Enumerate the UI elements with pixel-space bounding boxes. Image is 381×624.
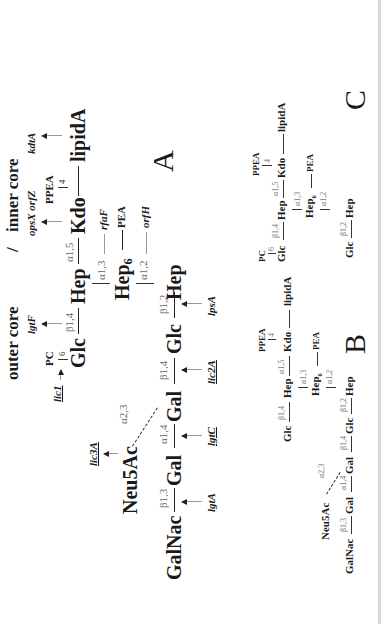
c-bond-hep-hep6 (292, 209, 302, 210)
opsX-arrow (42, 221, 62, 222)
core-separator: / (4, 247, 21, 252)
c-glc-lower-node: Glc (344, 242, 355, 259)
b-link-a23: α2,3 (318, 464, 326, 478)
b-ppea-bond (268, 339, 276, 340)
c-kdo-node: Kdo (276, 158, 287, 178)
c-hep-lower-node: Hep (344, 198, 355, 218)
c-link-a15: α1,5 (272, 182, 280, 196)
figure-frame: outer core / inner core lgtF opsX orfZ k… (0, 0, 381, 624)
b-lipidA-node: lipidA (282, 277, 293, 306)
glc-node: Glc (68, 338, 88, 368)
b-link-a12: α1,2 (326, 370, 334, 384)
bond-neu5ac-gal (132, 407, 158, 446)
gene-lgtF: lgtF (26, 315, 37, 334)
b-link-b12: β1,2 (340, 398, 348, 412)
b-neu5ac-node: Neu5Ac (320, 503, 331, 540)
c-lipidA-node: lipidA (276, 103, 287, 132)
lps-structure-diagram: outer core / inner core lgtF opsX orfZ k… (0, 0, 381, 624)
panel-label-A: A (148, 150, 178, 172)
pc-substituent: PC (44, 351, 55, 366)
b-kdo-node: Kdo (282, 332, 293, 352)
link-b13: β1,3 (158, 489, 169, 508)
c-pea-substituent: PEA (306, 154, 315, 172)
panel-label-C: C (340, 90, 370, 110)
b-bond-hep-hep6 (298, 387, 308, 388)
c-link-b14: β1,4 (272, 224, 280, 238)
b-link-a14: α1,4 (340, 476, 348, 490)
galnac-node: GalNac (164, 516, 184, 580)
lic3A-arrow (104, 453, 118, 454)
kdo-node: Kdo (68, 197, 88, 234)
b-glc2-node: Glc (344, 418, 355, 435)
rfaF-arrow (104, 234, 105, 254)
b-glc-node: Glc (282, 426, 293, 443)
c-link-a12: α1,2 (320, 192, 328, 206)
b-bond-glc-hep (289, 402, 290, 422)
b-hep-node: Hep (282, 378, 293, 398)
c-bond-hep-kdo (283, 180, 284, 198)
lpsA-arrow (182, 303, 202, 304)
c-bond-hep6-hep (320, 209, 330, 210)
b-gal2-node: Gal (344, 457, 355, 474)
gene-opsX-orfZ: opsX orfZ (26, 190, 37, 236)
ppea-bond (58, 187, 68, 188)
link-a14: α1,4 (158, 424, 169, 444)
b-link-b14: β1,4 (278, 406, 286, 420)
link-b14-gal-glc: β1,4 (158, 361, 169, 380)
c-hep-node: Hep (276, 200, 287, 220)
c-glc-node: Glc (276, 246, 287, 263)
gal2-node: Gal (164, 391, 184, 422)
b-galnac-node: GalNac (344, 539, 355, 574)
inner-core-header: inner core (4, 159, 21, 233)
outer-core-header: outer core (4, 307, 21, 380)
b-bond-glc-hep (351, 398, 352, 414)
bond-hep6-hep (136, 283, 154, 284)
b-bond-gal-gal (351, 476, 352, 492)
c-hep6-node: Hep6 (304, 195, 318, 218)
orfH-arrow (146, 232, 147, 254)
hep6-label: Hep (111, 264, 133, 300)
bond-gal-glc (174, 358, 175, 384)
neu5ac-node: Neu5Ac (120, 446, 140, 514)
c-bond-glc-hep (283, 222, 284, 240)
c-bond-glc-hep-lower (351, 220, 352, 238)
kdtA-arrow (42, 135, 62, 136)
c-ppea-substituent: PPEA (252, 153, 261, 177)
b-hep-lower-node: Hep (344, 376, 355, 396)
b-hep6-node: Hep6 (310, 373, 324, 396)
pc-position: 6 (58, 352, 67, 357)
b-bond-hep6-hep (326, 387, 336, 388)
b-ppea-position: 4 (268, 333, 276, 337)
gal1-node: Gal (164, 455, 184, 486)
panel-label-B: B (340, 334, 370, 354)
b-link-a13: α1,3 (300, 370, 308, 384)
c-pc-substituent: PC (258, 250, 267, 262)
lgtF-arrow (42, 323, 62, 324)
link-a12: α1,2 (138, 260, 149, 280)
b-gal1-node: Gal (344, 497, 355, 514)
gene-rfaF: rfaF (98, 209, 109, 230)
b-link-a15: α1,5 (278, 360, 286, 374)
lgtC-arrow (182, 435, 202, 436)
gene-lic1: lic1 (52, 386, 63, 403)
b-link-b13: β1,3 (340, 518, 348, 532)
c-bond-kdo-lipid (283, 134, 284, 154)
bond-hep-hep6 (92, 283, 110, 284)
b-link-b14-gal-glc: β1,4 (340, 436, 348, 450)
link-a13: α1,3 (96, 260, 107, 280)
bond-glc-hep (78, 308, 79, 334)
b-bond-hep-kdo (289, 356, 290, 376)
bond-gal-gal (174, 424, 175, 448)
lipidA-node: lipidA (68, 109, 88, 162)
gene-lpsA: lpsA (206, 296, 217, 316)
lgtA-arrow (182, 501, 202, 502)
gene-kdtA: kdtA (26, 133, 37, 154)
c-ppea-position: 4 (264, 159, 272, 163)
bond-hep6-pea (122, 230, 123, 250)
b-ppea-substituent: PPEA (258, 329, 267, 353)
b-hep6-subscript: 6 (316, 373, 323, 376)
link-a23: α2,3 (118, 404, 129, 424)
c-hep6-subscript: 6 (310, 195, 317, 198)
b-bond-gal-glc (351, 436, 352, 452)
c-bond-hep6-pea (311, 174, 312, 188)
